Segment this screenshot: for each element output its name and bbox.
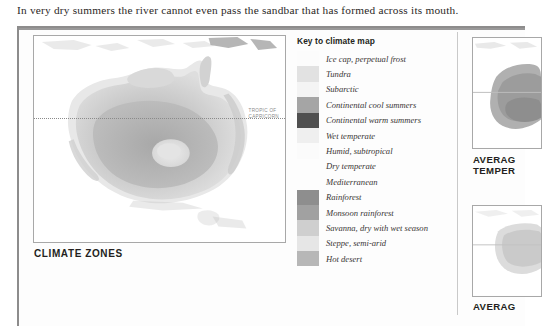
key-row: Ice cap, perpetual frost xyxy=(297,51,449,66)
key-row: Wet temperate xyxy=(297,128,449,143)
tropic-of-capricorn-line xyxy=(34,118,285,119)
key-row: Subarctic xyxy=(297,82,449,97)
key-color-swatch xyxy=(297,174,319,189)
climate-zones-map-title: CLIMATE ZONES xyxy=(34,248,123,259)
key-color-swatch xyxy=(297,113,319,128)
key-color-swatch xyxy=(297,51,319,66)
key-row: Continental cool summers xyxy=(297,97,449,112)
australia-climate-map-graphic xyxy=(34,36,285,242)
key-label: Tundra xyxy=(326,69,351,79)
average-rainfall-map-graphic xyxy=(473,206,541,295)
key-color-swatch xyxy=(297,236,319,251)
average-temperature-map-panel[interactable] xyxy=(472,37,542,149)
key-row: Dry temperate xyxy=(297,159,449,174)
key-row: Savanna, dry with wet season xyxy=(297,220,449,235)
key-label: Dry temperate xyxy=(326,161,376,171)
key-color-swatch xyxy=(297,205,319,220)
key-row: Monsoon rainforest xyxy=(297,205,449,220)
climate-zones-map-panel[interactable]: TROPIC OF CAPRICORN xyxy=(33,35,286,243)
key-label: Wet temperate xyxy=(326,131,375,141)
key-label: Ice cap, perpetual frost xyxy=(326,54,406,64)
key-row: Humid, subtropical xyxy=(297,143,449,158)
page-caption: In very dry summers the river cannot eve… xyxy=(17,2,525,18)
frame-top-edge xyxy=(19,28,525,30)
climate-key-title: Key to climate map xyxy=(297,36,449,46)
key-row: Continental warm summers xyxy=(297,113,449,128)
key-color-swatch xyxy=(297,82,319,97)
key-color-swatch xyxy=(297,97,319,112)
key-color-swatch xyxy=(297,251,319,266)
key-color-swatch xyxy=(297,143,319,158)
average-temperature-map-title: AVERAG TEMPER xyxy=(473,155,516,176)
key-color-swatch xyxy=(297,220,319,235)
key-label: Rainforest xyxy=(326,192,362,202)
key-color-swatch xyxy=(297,190,319,205)
key-label: Humid, subtropical xyxy=(326,146,393,156)
key-label: Continental warm summers xyxy=(326,115,421,125)
average-rainfall-map-panel[interactable] xyxy=(472,205,542,297)
key-label: Continental cool summers xyxy=(326,100,416,110)
key-color-swatch xyxy=(297,128,319,143)
average-temperature-map-graphic xyxy=(473,38,541,147)
key-label: Savanna, dry with wet season xyxy=(326,223,428,233)
key-label: Subarctic xyxy=(326,84,359,94)
key-color-swatch xyxy=(297,66,319,81)
column-divider xyxy=(457,32,458,315)
key-row: Steppe, semi-arid xyxy=(297,236,449,251)
key-row: Rainforest xyxy=(297,190,449,205)
tropic-of-capricorn-label: TROPIC OF CAPRICORN xyxy=(249,108,279,119)
average-rainfall-map-title: AVERAG xyxy=(473,302,516,313)
key-label: Hot desert xyxy=(326,254,362,264)
key-label: Steppe, semi-arid xyxy=(326,238,386,248)
key-row: Tundra xyxy=(297,66,449,81)
key-row: Mediterranean xyxy=(297,174,449,189)
key-color-swatch xyxy=(297,159,319,174)
key-label: Monsoon rainforest xyxy=(326,208,394,218)
key-label: Mediterranean xyxy=(326,177,378,187)
climate-key-block: Key to climate map Ice cap, perpetual fr… xyxy=(297,36,449,266)
key-row: Hot desert xyxy=(297,251,449,266)
climate-key-list: Ice cap, perpetual frostTundraSubarcticC… xyxy=(297,51,449,266)
